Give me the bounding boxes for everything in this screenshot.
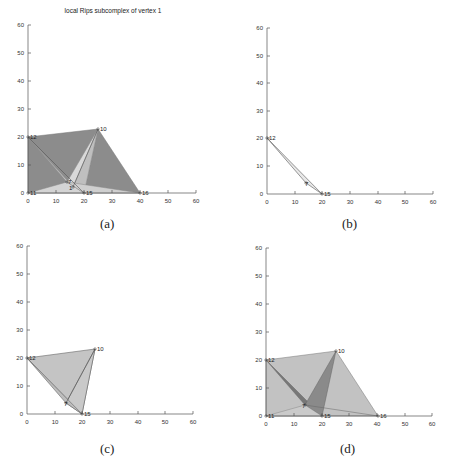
simplices [27,349,95,414]
svg-text:20: 20 [319,421,326,427]
svg-text:15: 15 [84,411,91,417]
y-tick-labels: 60 50 40 30 20 10 0 [17,22,24,196]
svg-text:11: 11 [268,413,275,419]
svg-text:30: 30 [255,329,262,335]
x-tick-labels: 0 10 20 30 40 50 60 [26,198,200,204]
svg-text:10: 10 [338,348,345,354]
svg-text:10: 10 [292,199,299,205]
svg-text:0: 0 [264,421,268,427]
simplices [266,351,378,416]
caption-b: (b) [342,216,357,232]
svg-text:0: 0 [25,419,29,425]
vertex-labels: 12 7 15 [266,135,332,197]
svg-text:10: 10 [52,419,59,425]
plot-title: local Rips subcomplex of vertex 1 [65,7,162,15]
svg-text:40: 40 [375,199,382,205]
panel-b-plot: 60 50 40 30 20 10 0 0 10 20 30 40 50 60 … [225,0,450,235]
svg-text:30: 30 [107,419,114,425]
caption-d: (d) [340,441,355,457]
svg-text:40: 40 [17,78,24,84]
svg-text:60: 60 [193,198,200,204]
svg-text:0: 0 [260,191,264,197]
y-tick-labels: 60 50 40 30 20 10 0 [256,25,263,197]
panel-a-plot: local Rips subcomplex of vertex 1 60 50 … [0,0,225,235]
svg-text:16: 16 [380,413,387,419]
svg-text:20: 20 [16,355,23,361]
svg-text:50: 50 [255,273,262,279]
axes [267,28,433,194]
svg-text:10: 10 [100,126,107,132]
panel-c-plot: 60 50 40 30 20 10 0 0 10 20 30 40 50 60 … [0,235,225,469]
svg-text:16: 16 [142,190,149,196]
svg-text:0: 0 [26,198,30,204]
svg-text:0: 0 [259,413,263,419]
svg-text:10: 10 [291,421,298,427]
svg-text:0: 0 [20,411,24,417]
svg-text:30: 30 [347,199,354,205]
svg-text:10: 10 [17,162,24,168]
svg-text:20: 20 [256,135,263,141]
x-tick-labels: 0 10 20 30 40 50 60 [265,199,437,205]
y-tick-labels: 60 50 40 30 20 10 0 [16,243,23,417]
svg-text:12: 12 [29,355,36,361]
svg-text:60: 60 [17,22,24,28]
x-tick-labels: 0 10 20 30 40 50 60 [25,419,197,425]
svg-text:40: 40 [256,80,263,86]
svg-text:50: 50 [256,53,263,59]
svg-text:11: 11 [30,190,37,196]
svg-text:0: 0 [21,190,25,196]
svg-text:50: 50 [402,421,409,427]
svg-text:60: 60 [16,243,23,249]
svg-text:60: 60 [430,199,437,205]
x-tick-labels: 0 10 20 30 40 50 60 [264,421,436,427]
svg-text:30: 30 [17,106,24,112]
svg-text:20: 20 [319,199,326,205]
y-tick-labels: 60 50 40 30 20 10 0 [255,245,262,419]
svg-text:12: 12 [268,357,275,363]
svg-text:50: 50 [162,419,169,425]
svg-text:50: 50 [16,271,23,277]
svg-text:10: 10 [16,383,23,389]
svg-text:15: 15 [324,191,331,197]
svg-text:0: 0 [265,199,269,205]
svg-text:30: 30 [256,108,263,114]
panel-d-plot: 60 50 40 30 20 10 0 0 10 20 30 40 50 60 … [225,235,450,469]
svg-text:15: 15 [324,413,331,419]
svg-text:40: 40 [135,419,142,425]
svg-text:50: 50 [17,50,24,56]
axes [27,246,193,414]
simplices [28,129,140,193]
svg-text:50: 50 [165,198,172,204]
svg-text:10: 10 [255,385,262,391]
svg-text:15: 15 [86,190,93,196]
svg-text:20: 20 [255,357,262,363]
svg-text:40: 40 [16,299,23,305]
svg-text:60: 60 [255,245,262,251]
caption-c: (c) [100,441,114,457]
svg-text:20: 20 [17,134,24,140]
simplices [267,138,322,194]
svg-text:10: 10 [53,198,60,204]
svg-text:12: 12 [30,134,37,140]
svg-text:60: 60 [429,421,436,427]
svg-text:20: 20 [81,198,88,204]
svg-text:20: 20 [79,419,86,425]
svg-text:30: 30 [109,198,116,204]
svg-text:30: 30 [346,421,353,427]
caption-a: (a) [100,216,114,232]
svg-text:40: 40 [255,301,262,307]
svg-text:10: 10 [97,346,104,352]
svg-text:60: 60 [256,25,263,31]
svg-text:40: 40 [374,421,381,427]
svg-text:12: 12 [269,135,276,141]
svg-text:10: 10 [256,163,263,169]
svg-text:30: 30 [16,327,23,333]
svg-text:50: 50 [402,199,409,205]
svg-text:60: 60 [190,419,197,425]
svg-text:40: 40 [137,198,144,204]
